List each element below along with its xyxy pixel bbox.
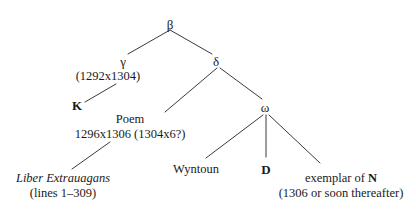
edge-beta-gamma (128, 30, 170, 54)
node-omega: ω (261, 101, 270, 115)
node-poem: Poem (116, 113, 144, 127)
edge-omega-exemplar (269, 115, 320, 163)
edge-omega-wyntoun (206, 115, 263, 158)
node-k-label: K (72, 99, 82, 113)
node-beta-label: β (167, 18, 174, 32)
node-gamma-date: (1292x1304) (76, 70, 141, 84)
node-exemplar-prefix: exemplar of (305, 171, 368, 185)
node-k: K (72, 99, 82, 113)
node-omega-label: ω (261, 101, 270, 115)
node-delta: δ (213, 55, 219, 69)
stemma-diagram: β γ (1292x1304) δ K Poem 1296x1306 (1304… (0, 0, 416, 215)
edge-poem-liber (72, 142, 110, 169)
node-d: D (261, 163, 270, 177)
node-liber: Liber Extrauagans (16, 172, 110, 186)
node-poem-label: Poem (116, 113, 144, 127)
node-wyntoun-label: Wyntoun (173, 163, 219, 177)
node-exemplar-date: (1306 or soon thereafter) (279, 187, 404, 201)
node-exemplar-date-label: (1306 or soon thereafter) (279, 187, 404, 201)
node-poem-date-label: 1296x1306 (1304x6?) (75, 128, 186, 142)
node-beta: β (167, 18, 174, 32)
node-d-label: D (261, 163, 270, 177)
node-wyntoun: Wyntoun (173, 163, 219, 177)
node-liber-date: (lines 1–309) (30, 187, 96, 201)
edge-beta-delta (170, 30, 212, 54)
node-gamma-label: γ (120, 55, 126, 69)
edge-delta-poem (165, 68, 217, 112)
edge-gamma-k (85, 84, 116, 102)
node-exemplar-label: exemplar of N (305, 172, 377, 186)
node-gamma-date-label: (1292x1304) (76, 70, 141, 84)
node-exemplar-sigil: N (368, 171, 377, 185)
node-gamma: γ (120, 55, 126, 69)
node-liber-label: Liber Extrauagans (16, 172, 110, 186)
node-exemplar: exemplar of N (305, 172, 377, 186)
node-liber-date-label: (lines 1–309) (30, 187, 96, 201)
edge-delta-omega (220, 68, 262, 99)
node-delta-label: δ (213, 55, 219, 69)
node-poem-date: 1296x1306 (1304x6?) (75, 128, 186, 142)
